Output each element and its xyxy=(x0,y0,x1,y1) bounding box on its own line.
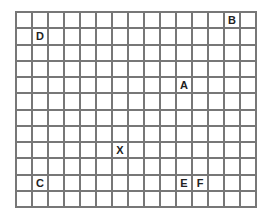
grid-cell xyxy=(225,176,241,192)
grid-cell xyxy=(129,143,145,159)
grid-cell xyxy=(129,111,145,127)
grid-cell xyxy=(81,127,97,143)
grid-cell xyxy=(113,13,129,29)
letter-grid: BDAXCEF xyxy=(15,11,257,208)
grid-cell xyxy=(209,29,225,45)
grid-cell xyxy=(49,78,65,94)
grid-cell xyxy=(129,176,145,192)
grid-cell xyxy=(225,62,241,78)
grid-cell xyxy=(193,78,209,94)
grid-cell xyxy=(193,29,209,45)
grid-cell xyxy=(193,143,209,159)
grid-cell xyxy=(49,143,65,159)
grid-cell xyxy=(129,94,145,110)
grid-cell xyxy=(241,13,257,29)
grid-cell xyxy=(225,29,241,45)
grid-cell xyxy=(97,176,113,192)
grid-cell xyxy=(209,192,225,208)
grid-cell xyxy=(17,29,33,45)
grid-cell xyxy=(145,159,161,175)
grid-cell xyxy=(145,176,161,192)
grid-cell xyxy=(225,127,241,143)
grid-cell xyxy=(65,111,81,127)
grid-cell xyxy=(113,192,129,208)
grid-cell xyxy=(145,62,161,78)
grid-cell xyxy=(129,13,145,29)
grid-cell xyxy=(113,29,129,45)
grid-cell xyxy=(225,46,241,62)
grid-cell xyxy=(49,127,65,143)
grid-cell xyxy=(17,111,33,127)
grid-cell xyxy=(97,94,113,110)
grid-cell xyxy=(49,94,65,110)
grid-cell xyxy=(177,29,193,45)
grid-cell xyxy=(33,111,49,127)
grid-cell xyxy=(17,13,33,29)
grid-cell xyxy=(33,127,49,143)
grid-cell xyxy=(97,46,113,62)
grid-cell xyxy=(49,29,65,45)
grid-cell xyxy=(65,78,81,94)
grid-cell xyxy=(129,46,145,62)
grid-cell xyxy=(161,192,177,208)
grid-cell xyxy=(241,94,257,110)
grid-cell xyxy=(225,111,241,127)
grid-cell xyxy=(177,13,193,29)
grid-cell xyxy=(49,46,65,62)
grid-cell xyxy=(193,192,209,208)
grid-cell xyxy=(81,192,97,208)
grid-cell xyxy=(145,13,161,29)
grid-cell xyxy=(49,111,65,127)
grid-cell xyxy=(161,29,177,45)
grid-cell xyxy=(161,62,177,78)
grid-cell xyxy=(33,192,49,208)
grid-cell xyxy=(113,62,129,78)
grid-cell-label-c: C xyxy=(33,176,49,192)
grid-cell xyxy=(241,78,257,94)
grid-cell xyxy=(65,29,81,45)
grid-cell xyxy=(129,159,145,175)
grid-cell xyxy=(161,46,177,62)
grid-cell xyxy=(17,94,33,110)
grid-cell xyxy=(65,176,81,192)
grid-cell xyxy=(33,159,49,175)
grid-cell xyxy=(161,78,177,94)
grid-cell xyxy=(193,127,209,143)
grid-cell xyxy=(33,62,49,78)
grid-cell xyxy=(193,111,209,127)
grid-cell xyxy=(241,159,257,175)
grid-cell xyxy=(65,143,81,159)
grid-cell xyxy=(33,46,49,62)
grid-cell xyxy=(129,192,145,208)
grid-cell xyxy=(17,46,33,62)
grid-cell xyxy=(81,13,97,29)
grid-cell xyxy=(81,29,97,45)
grid-cell xyxy=(113,94,129,110)
grid-cell xyxy=(97,111,113,127)
grid-cell xyxy=(193,94,209,110)
grid-cell xyxy=(65,94,81,110)
grid-cell xyxy=(81,46,97,62)
grid-cell xyxy=(145,192,161,208)
grid-cell-label-b: B xyxy=(225,13,241,29)
grid-cell xyxy=(49,62,65,78)
grid-cell xyxy=(17,127,33,143)
grid-cell xyxy=(145,46,161,62)
grid-cell xyxy=(193,13,209,29)
grid-cell xyxy=(49,13,65,29)
grid-cell xyxy=(113,111,129,127)
grid-cell xyxy=(225,159,241,175)
grid-cell xyxy=(225,192,241,208)
grid-cell xyxy=(145,94,161,110)
grid-cell xyxy=(81,143,97,159)
grid-cell xyxy=(81,94,97,110)
grid-cell xyxy=(145,127,161,143)
grid-cell xyxy=(65,159,81,175)
grid-cell xyxy=(97,127,113,143)
grid-cell xyxy=(177,46,193,62)
grid-cell xyxy=(17,159,33,175)
grid-cell xyxy=(49,176,65,192)
grid-cell xyxy=(209,143,225,159)
grid-cell xyxy=(225,78,241,94)
grid-cell xyxy=(97,29,113,45)
